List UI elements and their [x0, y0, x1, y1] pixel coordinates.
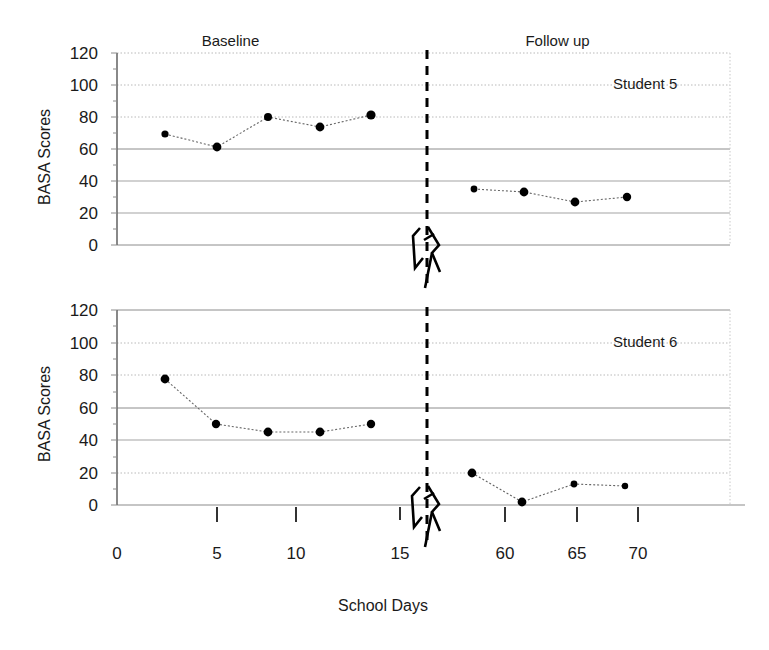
series-line-bottom-baseline [165, 379, 371, 432]
x-tick-label-70: 70 [623, 544, 653, 564]
y-tick-label-top-40: 40 [48, 172, 98, 192]
x-tick-label-65: 65 [562, 544, 592, 564]
y-minor-ticks-bottom [111, 310, 117, 505]
series-markers-bottom-baseline [161, 375, 376, 437]
y-tick-label-bottom-100: 100 [48, 334, 98, 354]
phase-label-baseline: Baseline [178, 32, 283, 49]
y-tick-label-bottom-120: 120 [48, 301, 98, 321]
y-tick-label-top-20: 20 [48, 204, 98, 224]
series-line-top-followup [474, 189, 627, 202]
y-tick-label-bottom-80: 80 [48, 366, 98, 386]
panel-title-student-6: Student 6 [613, 333, 677, 350]
x-tick-label-15: 15 [385, 544, 415, 564]
x-tick-label-5: 5 [202, 544, 232, 564]
y-tick-label-top-0: 0 [48, 236, 98, 256]
figure-container: Baseline Follow up Student 5 Student 6 B… [0, 0, 769, 650]
series-markers-top-followup [471, 186, 632, 207]
x-tick-label-10: 10 [281, 544, 311, 564]
y-tick-label-top-80: 80 [48, 108, 98, 128]
phase-label-followup: Follow up [505, 32, 610, 49]
x-tick-label-0: 0 [102, 544, 132, 564]
x-axis-title: School Days [318, 597, 448, 615]
y-tick-label-top-60: 60 [48, 140, 98, 160]
panel-title-student-5: Student 5 [613, 75, 677, 92]
y-tick-label-bottom-40: 40 [48, 431, 98, 451]
y-tick-label-top-100: 100 [48, 76, 98, 96]
y-tick-label-bottom-60: 60 [48, 399, 98, 419]
y-tick-label-bottom-20: 20 [48, 464, 98, 484]
x-tick-label-60: 60 [490, 544, 520, 564]
series-line-bottom-followup [472, 473, 625, 502]
axis-break-icon-top [413, 227, 440, 288]
y-tick-label-bottom-0: 0 [48, 496, 98, 516]
y-minor-ticks-top [111, 53, 117, 245]
series-markers-top-baseline [161, 110, 375, 151]
y-tick-label-top-120: 120 [48, 44, 98, 64]
series-markers-bottom-followup [468, 469, 629, 507]
